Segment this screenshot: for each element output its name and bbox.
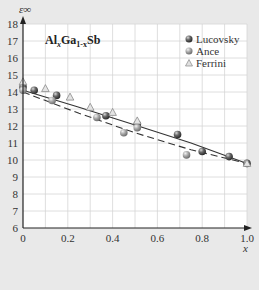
x-tick-label: 0 (20, 232, 26, 244)
point-lucovsky (225, 153, 233, 161)
x-tick-label: 0.2 (61, 232, 75, 244)
y-tick-label: 13 (7, 103, 19, 115)
x-axis-label: x (242, 242, 248, 254)
x-axis-arrow-icon (244, 225, 252, 231)
legend-label-lucovsky: Lucovsky (196, 33, 240, 45)
x-tick-label: 0.8 (195, 232, 209, 244)
chart-title: AlxGa1-xSb (45, 33, 101, 49)
point-lucovsky (30, 87, 38, 95)
point-lucovsky (174, 131, 182, 139)
y-axis-label: ε∞ (19, 3, 31, 15)
legend-label-ance: Ance (196, 45, 219, 57)
y-tick-label: 8 (13, 188, 19, 200)
point-ance (133, 124, 141, 132)
point-ance (120, 129, 128, 137)
y-tick-label: 10 (7, 154, 19, 166)
y-tick-label: 11 (7, 137, 18, 149)
x-tick-label: 0.4 (106, 232, 120, 244)
point-ance (183, 151, 191, 159)
y-tick-label: 16 (7, 52, 19, 64)
y-tick-label: 17 (7, 35, 19, 47)
point-lucovsky (198, 148, 206, 156)
y-tick-label: 18 (7, 18, 19, 30)
y-tick-label: 7 (13, 205, 19, 217)
chart-svg: 6789101112131415161718 00.20.40.60.81.0 … (0, 0, 259, 305)
y-tick-label: 14 (7, 86, 19, 98)
point-ance (48, 97, 56, 105)
x-tick-labels: 00.20.40.60.81.0 (20, 232, 254, 244)
y-tick-label: 15 (7, 69, 19, 81)
y-tick-label: 6 (13, 222, 19, 234)
legend-label-ferrini: Ferrini (196, 57, 226, 69)
point-ance (93, 114, 101, 122)
y-axis-arrow-icon (20, 16, 26, 24)
legend-marker-ance-icon (186, 48, 193, 55)
x-tick-label: 0.6 (151, 232, 165, 244)
y-tick-labels: 6789101112131415161718 (7, 18, 19, 234)
y-tick-label: 12 (7, 120, 18, 132)
legend-marker-lucovsky-icon (186, 36, 193, 43)
y-tick-label: 9 (13, 171, 19, 183)
